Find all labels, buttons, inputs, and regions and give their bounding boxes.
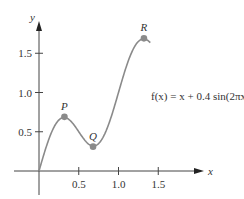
point-label-p: P: [60, 100, 68, 112]
x-tick-label: 0.5: [72, 178, 86, 190]
point-p: [61, 114, 68, 121]
x-axis-arrow-icon: [194, 168, 204, 174]
point-label-r: R: [140, 21, 148, 33]
labeled-points: PQR: [60, 21, 148, 150]
y-tick-label: 1.0: [18, 87, 32, 99]
point-q: [90, 143, 97, 150]
x-axis-label: x: [207, 165, 213, 177]
function-curve: [39, 39, 150, 171]
function-plot: 0.51.01.50.51.01.5 PQR x y f(x) = x + 0.…: [0, 0, 244, 199]
y-tick-label: 1.5: [18, 47, 32, 59]
point-label-q: Q: [89, 130, 97, 142]
x-tick-label: 1.5: [151, 178, 165, 190]
function-label: f(x) = x + 0.4 sin(2πx): [151, 90, 244, 103]
y-tick-label: 0.5: [18, 126, 32, 138]
axes: [14, 21, 204, 195]
point-r: [141, 35, 148, 42]
x-tick-label: 1.0: [112, 178, 126, 190]
y-axis-label: y: [29, 11, 35, 23]
y-axis-arrow-icon: [36, 21, 42, 31]
